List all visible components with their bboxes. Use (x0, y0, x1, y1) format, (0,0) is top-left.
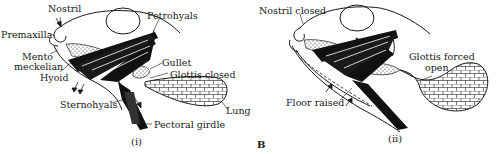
label-open: open (425, 63, 449, 73)
label-petrohyals: Petrohyals (147, 11, 198, 21)
label-floor-raised: Floor raised (286, 98, 344, 108)
caption-panel-i: (i) (131, 137, 142, 147)
label-glottis-closed: Glottis closed (170, 70, 236, 80)
caption-panel-ii: (ii) (388, 134, 402, 144)
label-nostril: Nostril (48, 4, 81, 14)
figure: Nostril Premaxilla Mento meckelian Hyoid… (0, 0, 500, 154)
label-premaxilla: Premaxilla (1, 30, 52, 40)
label-lung: Lung (226, 106, 251, 116)
panel-i-drawing (0, 0, 500, 154)
label-meckelian: meckelian (14, 62, 63, 72)
label-sternohyals: Sternohyals (60, 100, 117, 110)
label-gullet: Gullet (162, 58, 191, 68)
label-nostril-closed: Nostril closed (259, 6, 326, 16)
label-pectoral-girdle: Pectoral girdle (154, 120, 225, 130)
label-hyoid: Hyoid (40, 73, 69, 83)
figure-letter: B (257, 140, 265, 150)
label-glottis-forced: Glottis forced (409, 52, 475, 62)
lung-i (145, 76, 227, 105)
